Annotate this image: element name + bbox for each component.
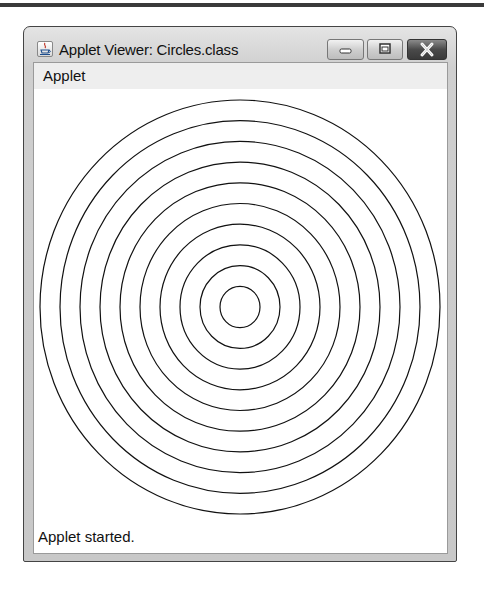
- java-cup-icon[interactable]: [37, 41, 53, 57]
- minimize-icon: [328, 40, 363, 59]
- maximize-button[interactable]: [367, 39, 403, 60]
- applet-viewer-window: Applet Viewer: Circles.class Applet A: [23, 26, 457, 562]
- circle-ring: [80, 141, 400, 472]
- circle-ring: [140, 204, 340, 411]
- applet-canvas[interactable]: [34, 89, 447, 529]
- applet-client-area: Applet Applet started.: [33, 62, 448, 554]
- minimize-button[interactable]: [327, 39, 364, 60]
- circle-ring: [220, 286, 260, 327]
- status-text: Applet started.: [38, 528, 135, 545]
- top-divider: [0, 3, 484, 7]
- concentric-circles-drawing: [34, 89, 447, 529]
- circle-ring: [120, 183, 360, 431]
- menu-bar: Applet: [34, 63, 447, 89]
- close-icon: [408, 40, 446, 59]
- circle-ring: [200, 266, 280, 349]
- circle-ring: [60, 121, 420, 494]
- circle-ring: [100, 162, 380, 452]
- maximize-icon: [368, 40, 402, 59]
- circle-ring: [180, 245, 300, 369]
- title-bar[interactable]: Applet Viewer: Circles.class: [24, 27, 456, 63]
- circle-ring: [160, 224, 320, 390]
- menu-applet[interactable]: Applet: [43, 67, 86, 84]
- close-button[interactable]: [407, 39, 447, 60]
- window-title: Applet Viewer: Circles.class: [59, 41, 238, 58]
